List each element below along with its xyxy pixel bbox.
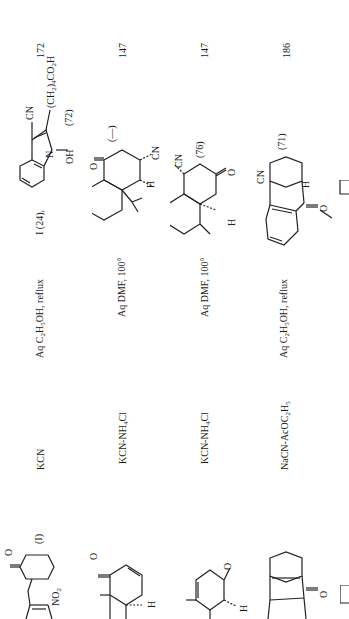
row2-ref: 147: [117, 43, 129, 58]
row4-product-yield: (71): [276, 133, 288, 150]
row1-product-chain: (CH2)4CO2H: [45, 56, 60, 108]
row1-product-yield: (72): [63, 109, 75, 126]
row3-substrate-o: O: [222, 563, 234, 570]
row3-product-o: O: [226, 169, 238, 176]
row3-substrate-structure: [186, 560, 246, 619]
row3-reagent: KCN-NH4Cl: [199, 412, 214, 464]
row4-product-cn: CN: [255, 170, 267, 184]
row4-conditions: Aq C2H5OH, reflux: [278, 279, 293, 358]
partial-bracket-top: [320, 180, 349, 240]
row3-product-cn: CN: [173, 154, 185, 168]
row1-reagent: KCN: [35, 449, 47, 470]
row2-reagent: KCN-NH4Cl: [117, 412, 132, 464]
row1-product-prefix: I (24),: [34, 210, 46, 235]
partial-bracket-bottom: [340, 585, 349, 609]
row2-product-h: H: [145, 181, 157, 188]
row3-conditions: Aq DMF, 100°: [199, 257, 211, 317]
row4-product-h: H: [300, 181, 312, 188]
row4-substrate-o: O: [318, 591, 330, 598]
row1-substrate-label: (I): [33, 534, 45, 544]
row2-conditions: Aq DMF, 100°: [116, 257, 128, 317]
row3-product-h: H: [226, 219, 238, 226]
row2-product-o: O: [88, 163, 100, 170]
row1-product-cn: CN: [24, 106, 36, 120]
row4-reagent: NaCN-AcOC2H5: [279, 401, 294, 470]
row2-substrate-structure: [92, 555, 162, 619]
row1-substrate-no2: NO2: [50, 588, 65, 606]
rotated-document-page: 172 CN (CH2)4CO2H N OH (7: [0, 0, 349, 619]
row1-product-oh: OH: [64, 150, 76, 164]
row2-substrate-h: H: [146, 601, 158, 608]
row1-product-n: N: [44, 151, 56, 158]
row1-substrate-o: O: [3, 549, 15, 556]
row1-substrate-structure: [0, 545, 70, 619]
row4-substrate-structure: [262, 550, 322, 619]
row1-conditions: Aq C2H5OH, reflux: [34, 279, 49, 358]
row3-product-yield: (76): [194, 141, 206, 158]
row2-product-cn: CN: [150, 146, 162, 160]
row4-ref: 186: [281, 43, 293, 58]
row2-substrate-o: O: [88, 553, 100, 560]
row3-substrate-h: H: [238, 605, 250, 612]
row3-ref: 147: [199, 43, 211, 58]
